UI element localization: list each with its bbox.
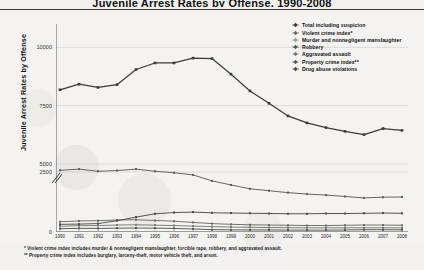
legend-marker-icon xyxy=(292,30,299,36)
data-point xyxy=(401,231,403,232)
legend-item: Violent crime index* xyxy=(292,29,422,36)
data-point xyxy=(325,194,327,196)
data-point xyxy=(59,231,61,232)
data-point xyxy=(382,196,384,198)
data-point xyxy=(287,227,289,229)
x-tick-label: 2004 xyxy=(321,234,331,239)
data-point xyxy=(97,225,99,227)
x-tick-label: 1998 xyxy=(207,234,217,239)
data-point xyxy=(154,224,156,226)
data-point xyxy=(211,229,213,231)
data-point xyxy=(382,231,384,232)
legend-label: Drug abuse violations xyxy=(302,66,357,72)
data-point xyxy=(344,195,346,197)
data-point xyxy=(97,170,99,172)
legend-item: Aggravated assault xyxy=(292,51,422,58)
y-tick-label: 7500 xyxy=(40,103,52,109)
data-point xyxy=(192,174,194,176)
data-point xyxy=(135,168,137,170)
data-point xyxy=(211,223,213,225)
data-point xyxy=(401,196,403,198)
data-point xyxy=(211,212,213,214)
data-point xyxy=(230,73,233,76)
data-point xyxy=(154,231,156,232)
data-point xyxy=(59,228,61,230)
data-point xyxy=(97,223,99,225)
data-point xyxy=(401,229,403,231)
x-tick-label: 2008 xyxy=(397,234,407,239)
data-point xyxy=(116,83,119,86)
data-point xyxy=(249,224,251,226)
data-point xyxy=(154,213,156,215)
data-point xyxy=(116,220,118,222)
x-tick-label: 1992 xyxy=(93,234,103,239)
data-point xyxy=(382,224,384,226)
x-tick-label: 2001 xyxy=(264,234,274,239)
data-point xyxy=(78,168,80,170)
data-point xyxy=(211,231,213,232)
data-point xyxy=(287,213,289,215)
data-point xyxy=(116,224,118,226)
data-point xyxy=(249,231,251,232)
data-point xyxy=(230,231,232,232)
data-point xyxy=(325,229,327,231)
data-point xyxy=(230,212,232,214)
page-title: Juvenile Arrest Rates by Offense, 1990-2… xyxy=(0,0,424,7)
data-point xyxy=(192,57,195,60)
data-point xyxy=(325,227,327,229)
data-point xyxy=(382,212,384,214)
data-point xyxy=(230,226,232,228)
data-point xyxy=(363,229,365,231)
y-tick-label: 0 xyxy=(49,229,52,235)
legend-marker-icon xyxy=(292,66,299,72)
data-point xyxy=(173,212,175,214)
data-point xyxy=(306,225,308,227)
data-point xyxy=(173,172,175,174)
data-point xyxy=(192,225,194,227)
data-point xyxy=(249,226,251,228)
data-point xyxy=(344,130,347,133)
data-point xyxy=(192,228,194,230)
data-point xyxy=(287,229,289,231)
data-point xyxy=(59,223,61,225)
data-point xyxy=(154,170,156,172)
legend-label: Violent crime index* xyxy=(302,30,353,36)
data-point xyxy=(268,227,270,229)
data-point xyxy=(344,231,346,232)
series-5 xyxy=(59,168,403,199)
x-tick-label: 1997 xyxy=(188,234,198,239)
data-point xyxy=(192,211,194,213)
data-point xyxy=(306,193,308,195)
data-point xyxy=(78,231,80,232)
data-point xyxy=(401,227,403,229)
data-point xyxy=(59,225,61,227)
data-point xyxy=(135,227,137,229)
y-axis-label: Juvenile Arrest Rates by Offense xyxy=(19,18,28,168)
x-tick-label: 2005 xyxy=(340,234,350,239)
data-point xyxy=(116,170,118,172)
data-point xyxy=(78,220,80,222)
x-tick-label: 1996 xyxy=(169,234,179,239)
legend-marker-icon xyxy=(292,59,299,65)
legend-item: Robbery xyxy=(292,44,422,51)
data-point xyxy=(173,225,175,227)
legend-item: Murder and nonnegligent manslaughter xyxy=(292,37,422,44)
x-axis-ticks: 1990199119921993199419951996199719981999… xyxy=(56,234,408,244)
data-point xyxy=(287,224,289,226)
data-point xyxy=(59,89,62,92)
data-point xyxy=(306,229,308,231)
data-point xyxy=(268,190,270,192)
data-point xyxy=(401,212,403,214)
data-point xyxy=(268,224,270,226)
x-tick-label: 1990 xyxy=(55,234,65,239)
data-point xyxy=(192,231,194,232)
footnotes: * Violent crime index includes murder & … xyxy=(24,245,420,259)
data-point xyxy=(401,224,403,226)
legend-label: Robbery xyxy=(302,44,323,50)
data-point xyxy=(116,227,118,229)
data-point xyxy=(211,57,214,60)
data-point xyxy=(173,231,175,232)
data-point xyxy=(268,213,270,215)
x-tick-label: 2000 xyxy=(245,234,255,239)
data-point xyxy=(344,224,346,226)
